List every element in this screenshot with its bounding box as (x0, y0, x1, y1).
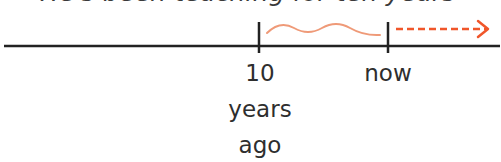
marker-label-past: 10 years ago (210, 55, 310, 162)
marker-label-now: now (338, 55, 438, 91)
marker-label-line: 10 (210, 55, 310, 91)
marker-label-line: now (338, 55, 438, 91)
marker-label-line: ago (210, 127, 310, 162)
duration-wave (267, 24, 380, 35)
marker-label-line: years (210, 91, 310, 127)
